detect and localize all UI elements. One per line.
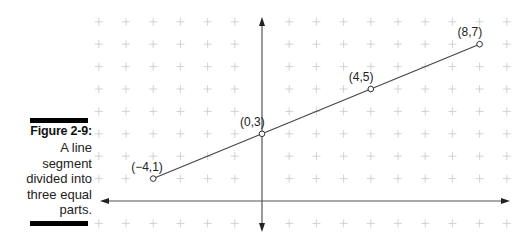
point-marker — [150, 176, 156, 182]
coordinate-plane: (−4,1)(0,3)(4,5)(8,7) — [0, 0, 532, 237]
grid-crosses — [95, 18, 511, 228]
point-label: (8,7) — [458, 25, 483, 39]
point-marker — [259, 131, 265, 137]
point-label: (−4,1) — [131, 160, 163, 174]
x-axis-right-arrow-icon — [501, 198, 510, 204]
y-axis-down-arrow-icon — [259, 223, 265, 232]
point-label: (4,5) — [349, 70, 374, 84]
y-axis-up-arrow-icon — [259, 17, 265, 26]
point-label: (0,3) — [240, 115, 265, 129]
x-axis-left-arrow-icon — [100, 198, 109, 204]
point-marker — [477, 41, 483, 47]
line-segment: (−4,1)(0,3)(4,5)(8,7) — [131, 25, 482, 181]
point-marker — [368, 86, 374, 92]
